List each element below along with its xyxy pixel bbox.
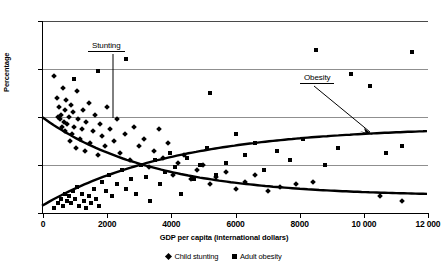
- x-tick-2000: [107, 213, 108, 218]
- x-axis-title: GDP per capita (international dollars): [0, 233, 448, 242]
- x-tick-4000: [171, 213, 172, 218]
- x-tick-label-8000: 8000: [270, 219, 330, 229]
- data-point-child-stunting: [54, 95, 60, 101]
- data-point-adult-obesity: [234, 132, 238, 136]
- data-point-adult-obesity: [92, 187, 96, 191]
- data-point-adult-obesity: [192, 177, 196, 181]
- data-point-adult-obesity: [129, 177, 133, 181]
- data-point-child-stunting: [63, 129, 69, 135]
- data-point-child-stunting: [66, 114, 72, 120]
- data-point-adult-obesity: [336, 146, 340, 150]
- data-point-child-stunting: [72, 124, 78, 130]
- data-point-adult-obesity: [198, 163, 202, 167]
- data-point-adult-obesity: [56, 201, 60, 205]
- data-point-child-stunting: [79, 126, 85, 132]
- data-point-adult-obesity: [185, 156, 189, 160]
- data-point-adult-obesity: [253, 141, 257, 145]
- data-point-adult-obesity: [87, 194, 91, 198]
- data-point-child-stunting: [60, 85, 66, 91]
- data-point-child-stunting: [95, 153, 101, 159]
- x-tick-label-4000: 4000: [141, 219, 201, 229]
- data-point-adult-obesity: [115, 182, 119, 186]
- data-point-child-stunting: [207, 181, 213, 187]
- data-point-adult-obesity: [71, 189, 75, 193]
- data-point-adult-obesity: [73, 197, 77, 201]
- data-point-child-stunting: [82, 148, 88, 154]
- x-tick-8000: [300, 213, 301, 218]
- data-point-adult-obesity: [262, 168, 266, 172]
- data-point-adult-obesity: [148, 199, 152, 203]
- y-tick-80: [38, 21, 43, 22]
- data-point-adult-obesity: [400, 144, 404, 148]
- x-tick-0: [43, 213, 44, 218]
- data-point-child-stunting: [399, 198, 405, 204]
- data-point-adult-obesity: [52, 206, 56, 210]
- y-tick-20: [38, 165, 43, 166]
- x-tick-label-10000: 10 000: [334, 219, 394, 229]
- data-point-adult-obesity: [323, 163, 327, 167]
- y-tick-60: [38, 69, 43, 70]
- data-point-child-stunting: [90, 129, 96, 135]
- x-tick-label-0: 0: [13, 219, 73, 229]
- data-point-adult-obesity: [96, 69, 100, 73]
- data-point-child-stunting: [51, 73, 57, 79]
- data-point-child-stunting: [65, 121, 71, 127]
- data-point-child-stunting: [233, 186, 239, 192]
- x-tick-10000: [364, 213, 365, 218]
- data-point-adult-obesity: [120, 168, 124, 172]
- data-point-adult-obesity: [75, 185, 79, 189]
- legend-label-child-stunting: Child stunting: [174, 252, 218, 261]
- x-tick-12000: [428, 213, 429, 218]
- data-point-adult-obesity: [72, 77, 76, 81]
- data-point-child-stunting: [165, 141, 171, 147]
- data-point-child-stunting: [146, 165, 152, 171]
- data-point-child-stunting: [100, 133, 106, 139]
- data-point-adult-obesity: [97, 204, 101, 208]
- data-point-child-stunting: [69, 131, 75, 137]
- data-point-adult-obesity: [89, 201, 93, 205]
- data-point-child-stunting: [265, 189, 271, 195]
- data-point-adult-obesity: [124, 187, 128, 191]
- data-point-child-stunting: [194, 167, 200, 173]
- chart-figure: 0204060800200040006000800010 00012 000 P…: [0, 0, 448, 277]
- x-tick-label-2000: 2000: [77, 219, 137, 229]
- annotation-stunting: Stunting: [88, 41, 125, 52]
- x-tick-label-12000: 12 000: [398, 219, 448, 229]
- data-point-child-stunting: [160, 155, 166, 161]
- plot-top-rule: [43, 21, 428, 22]
- data-point-child-stunting: [88, 141, 94, 147]
- data-point-adult-obesity: [144, 175, 148, 179]
- data-point-child-stunting: [377, 193, 383, 199]
- legend-item-child-stunting: Child stunting: [166, 252, 218, 261]
- data-point-adult-obesity: [410, 50, 414, 54]
- data-point-child-stunting: [242, 179, 248, 185]
- data-point-child-stunting: [62, 107, 68, 113]
- data-point-adult-obesity: [301, 137, 305, 141]
- data-point-child-stunting: [67, 138, 73, 144]
- data-point-adult-obesity: [158, 182, 162, 186]
- data-point-adult-obesity: [163, 170, 167, 174]
- data-point-adult-obesity: [69, 201, 73, 205]
- data-point-child-stunting: [278, 184, 284, 190]
- data-point-child-stunting: [252, 172, 258, 178]
- y-axis-title: Percentage: [2, 53, 11, 92]
- data-point-adult-obesity: [139, 163, 143, 167]
- data-point-adult-obesity: [368, 84, 372, 88]
- data-point-adult-obesity: [107, 173, 111, 177]
- data-point-adult-obesity: [214, 173, 218, 177]
- data-point-adult-obesity: [168, 151, 172, 155]
- data-point-child-stunting: [83, 119, 89, 125]
- data-point-adult-obesity: [104, 189, 108, 193]
- data-point-adult-obesity: [205, 146, 209, 150]
- data-point-adult-obesity: [67, 194, 71, 198]
- y-tick-40: [38, 117, 43, 118]
- data-point-child-stunting: [111, 138, 117, 144]
- data-point-adult-obesity: [134, 192, 138, 196]
- data-point-child-stunting: [132, 124, 138, 130]
- annotation-obesity: Obesity: [300, 73, 334, 84]
- data-point-adult-obesity: [100, 180, 104, 184]
- data-point-child-stunting: [73, 145, 79, 151]
- data-point-child-stunting: [127, 157, 133, 163]
- data-point-adult-obesity: [153, 158, 157, 162]
- data-point-child-stunting: [97, 121, 103, 127]
